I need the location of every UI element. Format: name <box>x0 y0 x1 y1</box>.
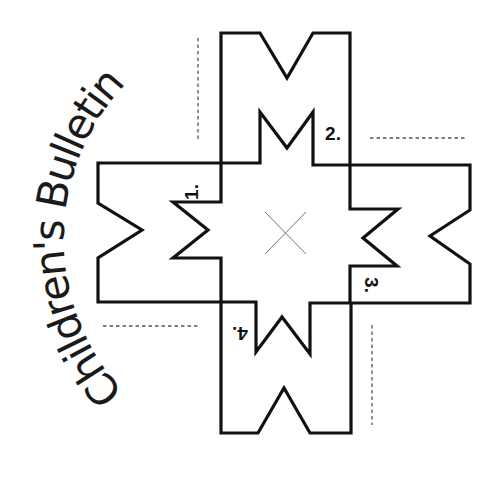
fold-label-4: 4. <box>232 323 248 344</box>
flap-top <box>221 33 350 165</box>
center-mark-icon <box>265 212 306 254</box>
bulletin-title: Children's Bulletin <box>24 58 133 417</box>
flap-left <box>98 163 221 302</box>
bulletin-template: Children's Bulletin 1. 2. 3. 4. <box>0 0 490 482</box>
flap-bottom <box>221 302 351 433</box>
fold-label-1: 1. <box>181 184 202 200</box>
fold-label-3: 3. <box>361 277 382 293</box>
fold-label-2: 2. <box>325 123 341 144</box>
